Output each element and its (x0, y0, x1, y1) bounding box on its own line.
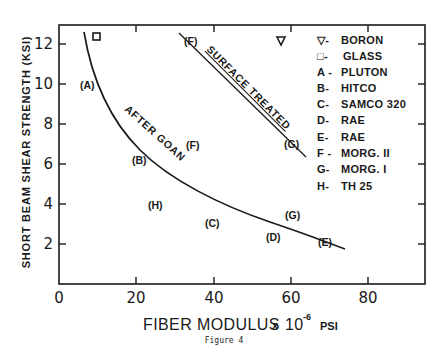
legend-key: F - (317, 147, 331, 159)
chart-figure: 0 20 40 60 80 2 4 6 8 10 12 SHORT BEAM S… (0, 0, 448, 356)
x-axis-title-base: 10 (285, 316, 304, 333)
legend-key: □- (317, 50, 328, 62)
x-tick-label: 60 (281, 289, 300, 307)
legend-label: RAE (341, 131, 365, 143)
legend-key: ▽- (316, 34, 329, 46)
surface-treated-label: SURFACE TREATED (205, 43, 294, 132)
y-tick-label: 2 (43, 235, 53, 253)
legend-label: MORG. I (341, 163, 387, 175)
x-axis-title-unit: PSI (320, 320, 338, 332)
x-tick-labels: 0 20 40 60 80 (54, 289, 377, 307)
boron-marker-icon (277, 37, 285, 45)
legend-key: G- (317, 163, 330, 175)
legend-label: SAMCO 320 (341, 98, 406, 110)
legend: ▽- BORON □- GLASS A - PLUTON B- HITCO C-… (316, 34, 406, 192)
glass-marker-icon (93, 33, 100, 40)
point-label-f-upper: (F) (184, 35, 197, 47)
legend-key: E- (317, 131, 329, 143)
legend-key: C- (317, 98, 329, 110)
y-tick-labels: 2 4 6 8 10 12 (34, 35, 53, 253)
y-tick-label: 8 (43, 115, 53, 133)
x-tick-label: 40 (204, 289, 223, 307)
point-label-c: (C) (205, 217, 220, 229)
x-axis-title: FIBER MODULUS x 10 -6 PSI (143, 312, 338, 333)
legend-label: HITCO (341, 82, 377, 94)
point-label-e: (E) (318, 236, 332, 248)
point-label-h: (H) (148, 199, 163, 211)
figure-caption: Figure 4 (205, 336, 244, 345)
x-axis-title-times: x (272, 319, 279, 331)
legend-label: TH 25 (341, 180, 372, 192)
x-tick-label: 20 (126, 289, 145, 307)
legend-label: PLUTON (341, 66, 388, 78)
legend-label: GLASS (343, 50, 382, 62)
x-axis-title-main: FIBER MODULUS (143, 316, 280, 333)
x-axis-title-exponent: -6 (303, 312, 311, 322)
y-tick-label: 4 (43, 195, 53, 213)
point-label-a: (A) (80, 79, 95, 91)
point-label-b: (B) (132, 154, 147, 166)
data-point-labels: (A) (B) (C) (D) (E) (F) (F) (G) (G) (H) (80, 35, 332, 248)
legend-label: BORON (341, 34, 383, 46)
legend-label: MORG. II (341, 147, 390, 159)
y-axis-title: SHORT BEAM SHEAR STRENGTH (KSI) (20, 36, 32, 269)
point-label-d: (D) (266, 231, 281, 243)
point-label-f-lower: (F) (186, 139, 199, 151)
legend-label: RAE (341, 114, 365, 126)
point-label-g-upper: (G) (284, 138, 299, 150)
y-tick-label: 12 (34, 35, 53, 53)
y-tick-label: 10 (34, 75, 53, 93)
legend-key: B- (317, 82, 329, 94)
x-tick-label: 80 (358, 289, 377, 307)
y-tick-label: 6 (43, 155, 53, 173)
legend-key: H- (317, 180, 329, 192)
legend-key: A - (317, 66, 332, 78)
legend-key: D- (317, 114, 329, 126)
point-label-g-lower: (G) (285, 209, 300, 221)
x-tick-label: 0 (54, 289, 64, 307)
